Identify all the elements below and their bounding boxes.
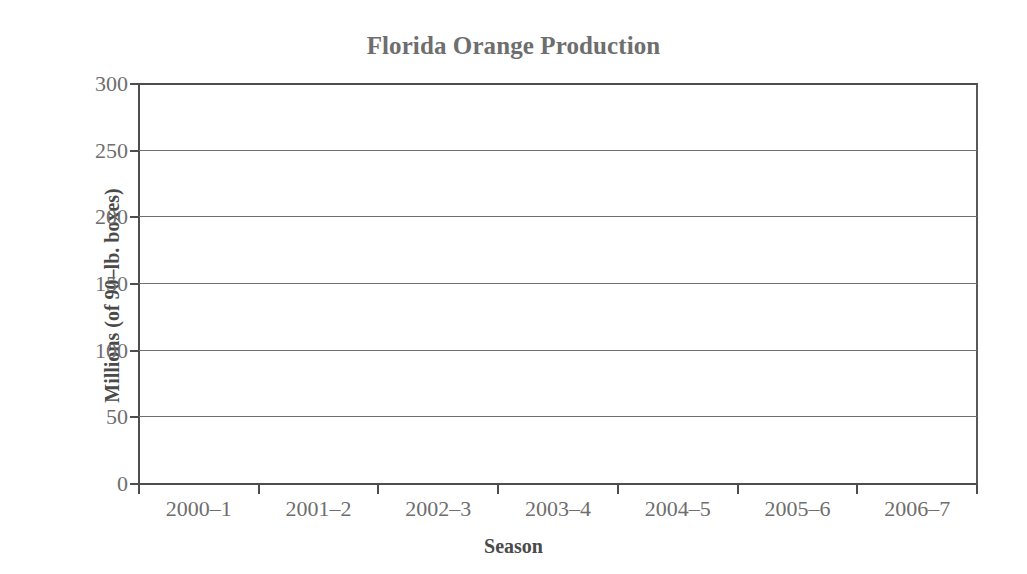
y-gridline: [139, 416, 977, 417]
x-axis-tick-mark: [258, 485, 260, 494]
y-axis-tick-label: 150: [68, 273, 128, 295]
x-axis-tick-mark: [976, 485, 978, 494]
y-axis-tick-mark: [130, 83, 139, 85]
y-axis-tick-mark: [130, 416, 139, 418]
y-axis-tick-mark: [130, 216, 139, 218]
x-axis-title: Season: [0, 535, 1027, 558]
x-axis-tick-mark: [138, 485, 140, 494]
y-gridline: [139, 216, 977, 217]
y-axis-tick-mark: [130, 150, 139, 152]
x-axis-tick-mark: [377, 485, 379, 494]
y-axis-tick-label: 250: [68, 140, 128, 162]
chart-figure: Florida Orange Production Millions (of 9…: [0, 0, 1027, 574]
x-axis-tick-mark: [497, 485, 499, 494]
x-axis-tick-label: 2006–7: [847, 498, 987, 520]
y-gridline: [139, 483, 977, 485]
y-axis-tick-label-group: 050100150200250300: [62, 0, 128, 574]
y-axis-tick-label: 0: [68, 473, 128, 495]
y-axis-tick-label: 300: [68, 73, 128, 95]
y-axis-tick-label: 50: [68, 406, 128, 428]
y-axis-tick-mark: [130, 283, 139, 285]
y-axis-tick-label: 200: [68, 206, 128, 228]
y-gridline: [139, 350, 977, 351]
y-gridline: [139, 83, 977, 85]
y-gridline: [139, 150, 977, 151]
x-axis-tick-mark: [617, 485, 619, 494]
x-axis-tick-mark: [856, 485, 858, 494]
x-axis-tick-mark: [737, 485, 739, 494]
chart-title: Florida Orange Production: [0, 32, 1027, 60]
y-axis-tick-mark: [130, 350, 139, 352]
y-axis-tick-label: 100: [68, 340, 128, 362]
plot-series-layer: [139, 84, 977, 484]
y-gridline: [139, 283, 977, 284]
plot-area: [139, 84, 977, 484]
